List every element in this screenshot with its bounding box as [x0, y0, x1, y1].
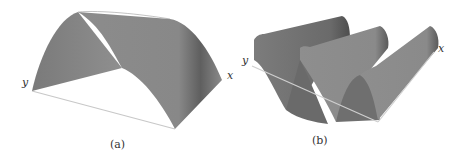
caption-b: (b): [312, 134, 328, 147]
y-axis-label: y: [242, 54, 248, 67]
wave-surface-plot: [230, 0, 465, 159]
arch-surface-plot: [0, 0, 235, 159]
y-axis-label: y: [22, 76, 28, 89]
y-axis-baseline: [32, 91, 175, 129]
x-axis-label: x: [438, 42, 444, 55]
figure-a: y x (a): [0, 0, 235, 159]
figure-b: y x (b): [230, 0, 465, 159]
caption-a: (a): [110, 138, 125, 151]
